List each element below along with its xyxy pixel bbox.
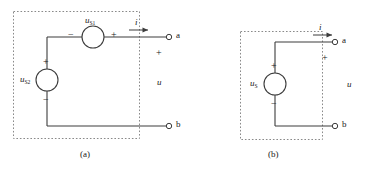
current-arrow-head (143, 28, 149, 33)
panel-b-circuit-drawing (190, 0, 381, 172)
source-label-us-subscript: S (255, 83, 258, 89)
sign-us-minus: − (271, 99, 277, 109)
port-voltage-plus: + (322, 53, 328, 63)
sign-us1-minus: − (68, 30, 74, 40)
source-label-us: uS (250, 79, 258, 88)
source-symbol-us (264, 73, 286, 95)
terminal-a-node (166, 34, 171, 39)
current-label-i: i (135, 18, 138, 27)
dotted-boundary-box (14, 12, 140, 139)
source-label-us1: uS1 (85, 16, 95, 25)
sign-us1-plus: + (111, 30, 117, 40)
panel-a: uS1 − + uS2 + − i a b + u (a) (0, 0, 191, 172)
panel-a-circuit-drawing (0, 0, 191, 172)
source-label-us2: uS2 (20, 75, 30, 84)
source-label-us2-subscript: S2 (25, 79, 31, 85)
terminal-b-label: b (176, 120, 181, 129)
figure-equivalent-voltage-sources: uS1 − + uS2 + − i a b + u (a) (0, 0, 381, 172)
panel-b-caption: (b) (268, 150, 279, 159)
panel-a-caption: (a) (80, 150, 90, 159)
port-voltage-label: u (347, 80, 352, 89)
port-voltage-label: u (157, 78, 162, 87)
current-label-i: i (319, 23, 322, 32)
source-label-us2-symbol: u (20, 74, 25, 84)
terminal-a-node (332, 39, 337, 44)
terminal-a-label: a (176, 31, 180, 40)
current-arrow-head (327, 33, 333, 38)
source-label-us1-symbol: u (85, 15, 90, 25)
terminal-b-label: b (342, 120, 347, 129)
source-symbol-us2 (36, 69, 58, 91)
sign-us2-minus: − (43, 95, 49, 105)
sign-us-plus: + (271, 61, 277, 71)
terminal-b-node (332, 123, 337, 128)
source-label-us-symbol: u (250, 78, 255, 88)
source-symbol-us1 (82, 26, 104, 48)
panel-b: uS + − i a b + u (b) (190, 0, 381, 172)
sign-us2-plus: + (43, 57, 49, 67)
terminal-a-label: a (342, 36, 346, 45)
terminal-b-node (166, 123, 171, 128)
source-label-us1-subscript: S1 (90, 20, 96, 26)
port-voltage-plus: + (156, 48, 162, 58)
